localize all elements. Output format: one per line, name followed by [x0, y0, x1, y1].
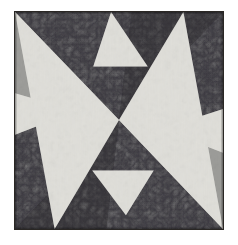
star-block-illustration [15, 12, 223, 229]
fabric-weave-overlay [15, 12, 223, 229]
artwork-frame [14, 11, 224, 230]
page-canvas: Abstract eight-pointed star quilt block … [0, 0, 238, 245]
